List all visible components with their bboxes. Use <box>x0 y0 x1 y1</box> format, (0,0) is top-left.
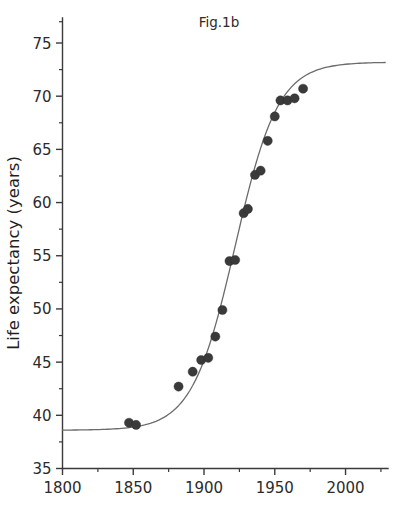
y-axis-title: Life expectancy (years) <box>4 156 23 350</box>
x-axis-tick-labels: 18001850190019502000 <box>43 479 364 497</box>
y-axis-ticks <box>56 22 63 469</box>
axes-group <box>63 18 389 469</box>
data-point <box>131 420 140 429</box>
x-tick-label: 1950 <box>256 479 294 497</box>
life-expectancy-chart: Life expectancy (years) Fig.1b 354045505… <box>0 0 395 516</box>
y-tick-label: 50 <box>32 300 51 318</box>
y-tick-label: 35 <box>32 460 51 478</box>
data-point <box>218 305 227 314</box>
y-tick-label: 75 <box>32 35 51 53</box>
data-point <box>290 94 299 103</box>
data-point <box>270 112 279 121</box>
figure-root: Life expectancy (years) Fig.1b 354045505… <box>0 0 395 516</box>
data-point <box>243 204 252 213</box>
data-point <box>204 353 213 362</box>
data-point <box>211 332 220 341</box>
x-tick-label: 1850 <box>114 479 152 497</box>
data-point <box>256 166 265 175</box>
y-tick-label: 55 <box>32 247 51 265</box>
y-tick-label: 70 <box>32 88 51 106</box>
data-point <box>298 84 307 93</box>
data-point <box>231 255 240 264</box>
data-point <box>174 382 183 391</box>
x-tick-label: 2000 <box>326 479 364 497</box>
y-tick-label: 65 <box>32 141 51 159</box>
y-tick-label: 60 <box>32 194 51 212</box>
x-tick-label: 1800 <box>43 479 81 497</box>
data-point <box>188 367 197 376</box>
y-tick-label: 45 <box>32 354 51 372</box>
y-axis-tick-labels: 354045505560657075 <box>32 35 51 479</box>
data-point <box>263 136 272 145</box>
data-point-group <box>124 84 307 429</box>
x-axis-ticks <box>63 469 381 476</box>
chart-title: Fig.1b <box>199 14 240 30</box>
logistic-fit-curve <box>63 62 386 430</box>
y-tick-label: 40 <box>32 407 51 425</box>
x-tick-label: 1900 <box>185 479 223 497</box>
